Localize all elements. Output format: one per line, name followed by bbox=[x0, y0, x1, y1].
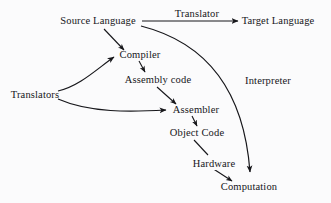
edge-translators-to-assembler bbox=[58, 99, 166, 111]
arrow-layer bbox=[0, 0, 331, 203]
edge-source-to-compiler bbox=[104, 29, 124, 50]
node-translators[interactable]: Translators bbox=[11, 89, 60, 101]
edge-translators-to-compiler bbox=[58, 57, 114, 91]
edge-compiler-to-assembly-code bbox=[139, 61, 145, 72]
node-target-language[interactable]: Target Language bbox=[242, 15, 315, 27]
edge-label-hardware: Hardware bbox=[191, 158, 237, 170]
edge-source-to-computation bbox=[141, 26, 250, 172]
edge-label-interpreter: Interpreter bbox=[244, 75, 293, 87]
node-source-language[interactable]: Source Language bbox=[60, 15, 135, 27]
node-computation[interactable]: Computation bbox=[221, 181, 277, 193]
node-assembler[interactable]: Assembler bbox=[173, 104, 219, 116]
node-compiler[interactable]: Compiler bbox=[120, 49, 161, 61]
node-object-code[interactable]: Object Code bbox=[170, 127, 224, 139]
edge-assembler-to-object-code bbox=[192, 116, 197, 126]
edge-label-translator: Translator bbox=[173, 8, 220, 20]
edge-object-code-to-computation-upper bbox=[194, 140, 208, 155]
node-assembly-code[interactable]: Assembly code bbox=[125, 74, 191, 86]
edge-assembly-code-to-assembler bbox=[157, 87, 176, 104]
diagram-canvas: Source Language Target Language Compiler… bbox=[0, 0, 331, 203]
